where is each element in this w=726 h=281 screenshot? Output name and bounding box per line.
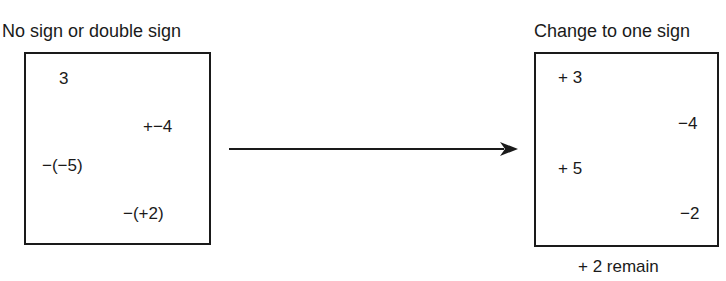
arrow-icon (226, 140, 518, 158)
right-item-3: + 5 (558, 159, 582, 179)
left-item-4: −(+2) (123, 204, 164, 224)
right-box: + 3 −4 + 5 −2 (534, 52, 719, 247)
left-item-2: +−4 (143, 117, 172, 137)
right-item-4: −2 (680, 204, 699, 224)
left-title: No sign or double sign (2, 21, 181, 42)
right-caption: + 2 remain (578, 257, 659, 277)
right-title: Change to one sign (534, 21, 690, 42)
right-item-1: + 3 (558, 68, 582, 88)
left-item-3: −(−5) (42, 156, 83, 176)
left-item-1: 3 (59, 69, 68, 89)
left-box: 3 +−4 −(−5) −(+2) (24, 52, 211, 245)
right-item-2: −4 (678, 114, 697, 134)
